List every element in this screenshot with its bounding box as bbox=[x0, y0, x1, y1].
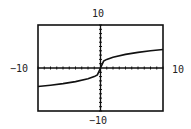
graph-screen bbox=[0, 0, 191, 129]
